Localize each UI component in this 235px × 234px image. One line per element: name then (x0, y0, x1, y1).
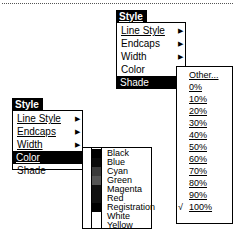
menu-item-line-style[interactable]: Line Style▶ (117, 24, 185, 37)
shade-other[interactable]: Other... (177, 69, 232, 81)
label: 10% (189, 94, 207, 104)
label: Other... (189, 70, 219, 80)
label: Yellow (107, 220, 133, 230)
label: Shade (120, 77, 149, 88)
label: 40% (189, 130, 207, 140)
label: 70% (189, 166, 207, 176)
swatch-registration (92, 203, 101, 212)
menu-item-shade[interactable]: Shade (116, 76, 180, 89)
swatch-red (92, 194, 101, 203)
style-menu-bottom: Line Style▶ Endcaps▶ Width▶ Color√ Shade (12, 110, 83, 170)
submenu-arrow-icon: ▶ (75, 112, 80, 125)
label: 20% (189, 106, 207, 116)
menu-item-endcaps[interactable]: Endcaps▶ (117, 37, 185, 50)
label: Endcaps (121, 38, 160, 49)
menu-item-color[interactable]: Color√ (12, 151, 82, 164)
submenu-arrow-icon: ▶ (178, 37, 183, 50)
swatch-black (92, 149, 101, 158)
shade-80[interactable]: 80% (177, 177, 232, 189)
shade-submenu: Other... 0% 10% 20% 30% 40% 50% 60% 70% … (176, 66, 233, 224)
menu-item-color[interactable]: Color▶ (117, 63, 185, 76)
label: 0% (189, 82, 202, 92)
submenu-arrow-icon: ▶ (75, 125, 80, 138)
label: Line Style (121, 25, 165, 36)
menu-item-shade[interactable]: Shade (13, 164, 82, 177)
shade-50[interactable]: 50% (177, 141, 232, 153)
label: 50% (189, 142, 207, 152)
check-icon: √ (178, 201, 183, 213)
shade-90[interactable]: 90% (177, 189, 232, 201)
shade-10[interactable]: 10% (177, 93, 232, 105)
label: Endcaps (17, 126, 56, 137)
style-menu-header-top[interactable]: Style (116, 10, 147, 22)
color-yellow[interactable]: Yellow (83, 221, 151, 230)
menu-item-width[interactable]: Width▶ (117, 50, 185, 63)
swatch-blue (92, 158, 101, 167)
swatch-magenta (92, 185, 101, 194)
shade-30[interactable]: 30% (177, 117, 232, 129)
submenu-arrow-icon: ▶ (178, 24, 183, 37)
label: 90% (189, 190, 207, 200)
menu-item-width[interactable]: Width▶ (13, 138, 82, 151)
label: Line Style (17, 113, 61, 124)
menu-item-endcaps[interactable]: Endcaps▶ (13, 125, 82, 138)
label: Width (121, 51, 147, 62)
shade-20[interactable]: 20% (177, 105, 232, 117)
label: Shade (17, 165, 46, 176)
label: Width (17, 139, 43, 150)
style-menu-header-bottom[interactable]: Style (12, 98, 43, 110)
menu-item-line-style[interactable]: Line Style▶ (13, 112, 82, 125)
label: 80% (189, 178, 207, 188)
submenu-arrow-icon: ▶ (178, 50, 183, 63)
swatch-cyan (92, 167, 101, 176)
shade-0[interactable]: 0% (177, 81, 232, 93)
dotted-separator (2, 3, 233, 4)
shade-70[interactable]: 70% (177, 165, 232, 177)
swatch-green (92, 176, 101, 185)
color-submenu: Black Blue Cyan Green Magenta Red Regist… (82, 147, 152, 229)
label: Color (121, 64, 145, 75)
style-header-label: Style (15, 99, 39, 110)
label: 100% (189, 202, 212, 212)
style-header-label: Style (119, 11, 143, 22)
shade-40[interactable]: 40% (177, 129, 232, 141)
label: 60% (189, 154, 207, 164)
shade-60[interactable]: 60% (177, 153, 232, 165)
label: Color (16, 152, 40, 163)
shade-100[interactable]: √100% (177, 201, 232, 213)
label: 30% (189, 118, 207, 128)
submenu-arrow-icon: ▶ (75, 138, 80, 151)
